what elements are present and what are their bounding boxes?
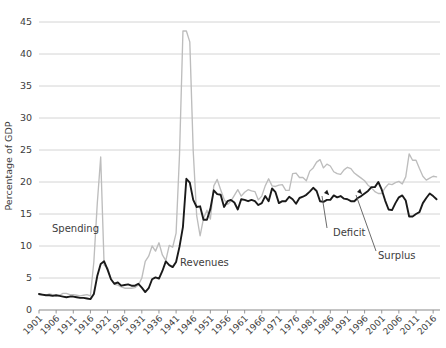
- y-tick-label: 45: [20, 16, 32, 27]
- series-label-spending: Spending: [52, 223, 99, 234]
- y-tick-label: 5: [26, 272, 32, 283]
- y-axis-title: Percentage of GDP: [3, 121, 14, 210]
- y-tick-label: 30: [20, 112, 32, 123]
- gridlines: [39, 22, 440, 278]
- y-tick-label: 25: [20, 144, 32, 155]
- y-tick-label: 40: [20, 48, 32, 59]
- chart-container: 051015202530354045 190119061911191619211…: [0, 0, 446, 348]
- annotation-leader-surplus: [356, 195, 376, 251]
- y-tick-label: 35: [20, 80, 32, 91]
- y-tick-label: 20: [20, 176, 32, 187]
- y-tick-label: 0: [26, 304, 32, 315]
- series-line-revenues: [39, 179, 437, 299]
- x-tick-label: 2016: [415, 313, 438, 336]
- annotation-arrow-deficit-icon: [324, 190, 329, 195]
- y-axis-title-text: Percentage of GDP: [3, 121, 14, 210]
- y-tick-label: 15: [20, 208, 32, 219]
- annotations: DeficitSurplus: [322, 189, 415, 261]
- annotation-label-surplus: Surplus: [378, 250, 415, 261]
- x-axis-ticks: 1901190619111916192119261931193619411946…: [21, 310, 439, 337]
- y-axis-ticks: 051015202530354045: [20, 16, 32, 315]
- annotation-arrow-surplus-icon: [357, 189, 362, 194]
- series-line-spending: [39, 31, 437, 296]
- series-label-revenues: Revenues: [180, 257, 229, 268]
- y-tick-label: 10: [20, 240, 32, 251]
- annotation-label-deficit: Deficit: [333, 227, 365, 238]
- data-series: SpendingRevenues: [39, 31, 437, 299]
- chart-plot-area: 051015202530354045 190119061911191619211…: [0, 0, 446, 348]
